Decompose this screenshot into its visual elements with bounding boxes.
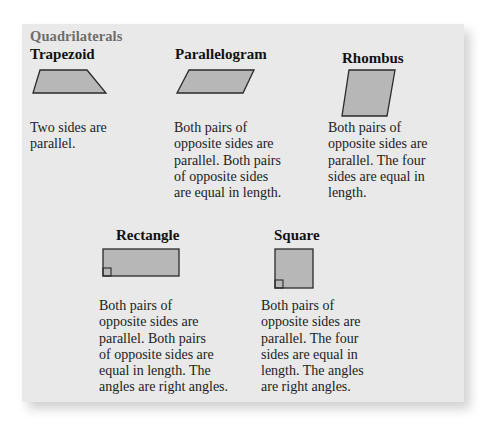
description-line: are right angles. (261, 379, 364, 395)
description-line: parallel. (30, 136, 107, 152)
description-line: length. The angles (261, 363, 364, 379)
trapezoid-label: Trapezoid (30, 46, 95, 63)
description-line: opposite sides are (99, 314, 228, 330)
description-line: are equal in length. (174, 185, 281, 201)
rhombus-description: Both pairs of opposite sides are paralle… (328, 120, 428, 201)
description-line: of opposite sides (174, 169, 281, 185)
rhombus-label: Rhombus (342, 50, 404, 67)
description-line: parallel. Both pairs (174, 153, 281, 169)
description-line: parallel. The four (328, 153, 428, 169)
parallelogram-description: Both pairs of opposite sides are paralle… (174, 120, 281, 201)
description-line: Both pairs of (261, 298, 364, 314)
description-line: angles are right angles. (99, 379, 228, 395)
description-line: Both pairs of (328, 120, 428, 136)
quadrilaterals-card (22, 24, 464, 402)
square-description: Both pairs of opposite sides are paralle… (261, 298, 364, 396)
description-line: equal in length. The (99, 363, 228, 379)
description-line: length. (328, 185, 428, 201)
description-line: parallel. Both pairs (99, 331, 228, 347)
description-line: Both pairs of (99, 298, 228, 314)
description-line: Two sides are (30, 120, 107, 136)
parallelogram-label: Parallelogram (175, 46, 267, 63)
description-line: sides are equal in (328, 169, 428, 185)
description-line: opposite sides are (261, 314, 364, 330)
description-line: opposite sides are (174, 136, 281, 152)
square-label: Square (274, 227, 320, 244)
rectangle-description: Both pairs of opposite sides are paralle… (99, 298, 228, 396)
trapezoid-description: Two sides are parallel. (30, 120, 107, 153)
description-line: opposite sides are (328, 136, 428, 152)
description-line: parallel. The four (261, 331, 364, 347)
description-line: sides are equal in (261, 347, 364, 363)
rectangle-label: Rectangle (116, 227, 179, 244)
figure-title: Quadrilaterals (30, 28, 122, 45)
description-line: Both pairs of (174, 120, 281, 136)
description-line: of opposite sides are (99, 347, 228, 363)
